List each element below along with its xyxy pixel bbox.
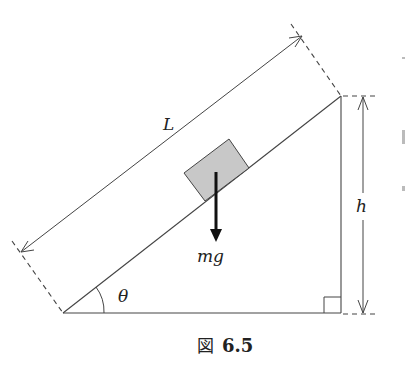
figure-caption-prefix: 図 xyxy=(197,336,214,356)
angle-label: θ xyxy=(118,286,128,306)
height-label: h xyxy=(356,196,367,216)
arrowhead-force-icon xyxy=(210,229,222,242)
length-label: L xyxy=(162,114,174,134)
l-extension-lines xyxy=(12,24,341,313)
figure-caption-number: 6.5 xyxy=(222,335,253,356)
incline-diagram: θ L h mg 図 6.5 xyxy=(0,0,405,366)
length-dimension-arrow xyxy=(21,36,302,252)
incline-surface xyxy=(63,96,341,313)
right-angle-mark xyxy=(324,297,341,313)
angle-arc xyxy=(96,287,104,313)
force-label: mg xyxy=(197,246,224,266)
incline-triangle xyxy=(63,96,341,313)
